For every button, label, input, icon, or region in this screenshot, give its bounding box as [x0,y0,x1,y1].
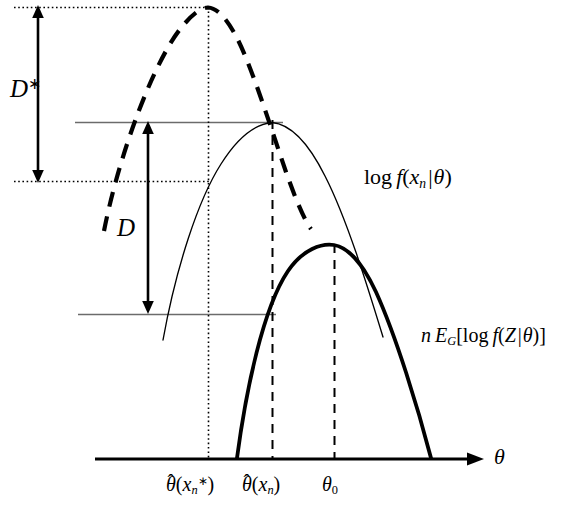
paren-close: ) [274,473,281,495]
figure-vector-layer [0,0,581,518]
figure-canvas: D∗ D logf(xn|θ) nEG[logf(Z|θ)] θ θˆ(xn∗)… [0,0,581,518]
conditional-bar: | [518,324,522,346]
dashed-curve-path [104,8,311,232]
log-operator: log [463,324,489,346]
d-star-label: D∗ [10,76,41,101]
theta-base: θ [322,473,332,495]
x-symbol: x [410,164,420,189]
d-base: D [117,214,135,241]
theta-subscript: 0 [332,483,338,497]
theta-axis-label: θ [494,446,505,468]
theta-symbol: θ [523,324,533,346]
axis-tick-label-theta-hat-x-star-n: θˆ(xn∗) [166,474,214,494]
E-subscript-G: G [447,334,456,348]
bracket-open: [ [456,324,463,346]
bracket-close: ] [539,324,546,346]
cropped-caption-strip [0,508,581,518]
theta-axis-label-text: θ [494,444,505,469]
conditional-bar: | [428,164,432,189]
paren-close: ) [208,473,215,495]
paren-open: ( [176,473,183,495]
d-arrow [142,121,154,314]
paren-open: ( [252,473,259,495]
arg-superscript: ∗ [198,474,208,488]
theta-axis-line [95,453,484,466]
d-star-superscript: ∗ [28,75,41,92]
paren-open: ( [402,164,409,189]
n-eg-log-f-z-theta-label: nEG[logf(Z|θ)] [421,325,546,345]
x-subscript: n [419,176,426,191]
Z-symbol: Z [505,324,516,346]
E-symbol: E [435,324,447,346]
paren-open: ( [498,324,505,346]
d-star-base: D [10,75,28,102]
paren-close: ) [444,164,451,189]
log-operator: log [364,164,392,189]
theta-symbol: θ [434,164,445,189]
axis-tick-label-theta-0: θ0 [322,474,338,494]
d-label: D [117,215,135,240]
n-symbol: n [421,324,431,346]
log-f-xn-theta-label: logf(xn|θ) [364,166,452,188]
hat-accent-icon: ˆ [243,472,250,492]
axis-tick-label-theta-hat-x-n: θˆ(xn) [242,474,280,494]
hat-accent-icon: ˆ [167,472,174,492]
